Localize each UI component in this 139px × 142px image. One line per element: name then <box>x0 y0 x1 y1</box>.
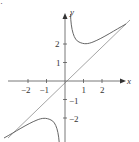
x-tick-label: 2 <box>100 85 105 95</box>
x-axis-label: x <box>126 76 131 86</box>
y-tick-label: −1 <box>69 96 79 106</box>
x-tick-label: 1 <box>82 85 87 95</box>
curve-lower-branch <box>4 118 60 142</box>
curve-upper-branch <box>71 14 127 44</box>
x-tick-label: −2 <box>21 85 31 95</box>
corner-mark: · <box>0 0 3 8</box>
x-axis-arrow-icon <box>120 79 126 84</box>
y-tick-label: 2 <box>55 39 60 49</box>
x-tick-label: −1 <box>40 85 50 95</box>
y-axis-arrow-icon <box>63 13 68 19</box>
function-graph: · −2 −1 1 2 2 1 −1 −2 x y <box>0 0 139 142</box>
y-tick-label: 1 <box>56 58 61 68</box>
y-axis-label: y <box>69 7 74 17</box>
y-tick-label: −2 <box>69 114 79 124</box>
